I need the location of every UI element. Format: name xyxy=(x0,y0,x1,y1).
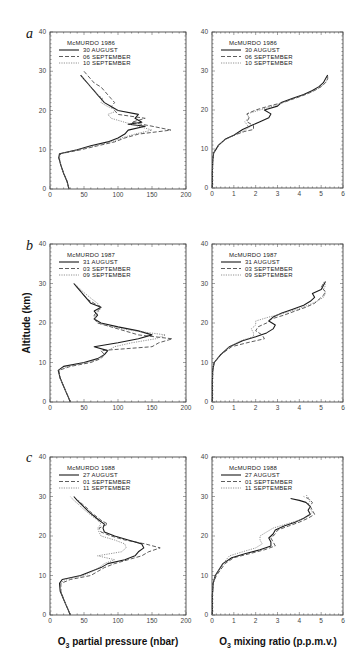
legend-entry: 27 AUGUST xyxy=(245,472,280,478)
y-tick-label: 40 xyxy=(201,240,209,247)
y-tick-label: 40 xyxy=(39,28,47,35)
panel-letter-a: a xyxy=(26,26,33,41)
legend-title: McMURDO 1988 xyxy=(229,465,278,471)
series-line-10-september xyxy=(212,79,327,188)
y-tick-label: 0 xyxy=(42,185,46,192)
y-tick-label: 0 xyxy=(204,611,208,618)
x-tick-label: 5 xyxy=(319,617,323,624)
x-tick-label: 100 xyxy=(113,404,124,411)
y-tick-label: 10 xyxy=(201,572,209,579)
x-tick-label: 0 xyxy=(48,617,52,624)
y-tick-label: 30 xyxy=(39,493,47,500)
x-tick-label: 5 xyxy=(319,190,323,197)
y-tick-label: 30 xyxy=(39,67,47,74)
y-tick-label: 0 xyxy=(204,184,208,191)
panel-letter-b: b xyxy=(26,238,33,253)
x-tick-label: 150 xyxy=(147,617,158,624)
x-axis-title-right: O3 mixing ratio (p.p.m.v.) xyxy=(219,636,337,649)
x-tick-label: 4 xyxy=(298,404,302,411)
legend-entry: 31 AUGUST xyxy=(83,259,118,265)
y-tick-label: 10 xyxy=(39,572,47,579)
y-tick-label: 20 xyxy=(39,532,47,539)
x-tick-label: 3 xyxy=(276,404,280,411)
x-tick-label: 200 xyxy=(181,617,192,624)
y-tick-label: 20 xyxy=(39,107,47,114)
legend-entry: 27 AUGUST xyxy=(83,472,118,478)
series-line-09-september xyxy=(59,284,166,403)
x-tick-label: 0 xyxy=(48,191,52,198)
legend-entry: 09 SEPTEMBER xyxy=(83,272,131,278)
y-tick-label: 40 xyxy=(39,453,47,460)
x-tick-label: 50 xyxy=(80,191,88,198)
x-axis-title-left: O3 partial pressure (nbar) xyxy=(58,636,179,649)
panel-a-right: 0123456010203040McMURDO 198630 AUGUST06 … xyxy=(201,28,345,197)
x-tick-label: 5 xyxy=(319,404,323,411)
ozone-profile-figure: a b c Altitude (km) O3 partial pressure … xyxy=(0,0,363,663)
series-line-11-september xyxy=(60,497,126,616)
y-tick-label: 40 xyxy=(201,453,209,460)
x-tick-label: 1 xyxy=(232,617,236,624)
x-tick-label: 1 xyxy=(232,404,236,411)
y-tick-label: 40 xyxy=(39,240,47,247)
x-tick-label: 4 xyxy=(298,617,302,624)
x-tick-label: 2 xyxy=(254,404,258,411)
legend-entry: 06 SEPTEMBER xyxy=(245,54,293,60)
y-tick-label: 20 xyxy=(201,532,209,539)
y-tick-label: 20 xyxy=(201,106,209,113)
legend-entry: 03 SEPTEMBER xyxy=(245,266,293,272)
legend-entry: 01 SEPTEMBER xyxy=(83,479,131,485)
x-tick-label: 50 xyxy=(80,617,88,624)
panel-b-left: 050100150200010203040McMURDO 198731 AUGU… xyxy=(39,240,192,411)
y-tick-label: 30 xyxy=(201,67,209,74)
y-tick-label: 20 xyxy=(39,319,47,326)
x-tick-label: 100 xyxy=(113,191,124,198)
x-tick-label: 0 xyxy=(210,404,214,411)
series-line-06-september xyxy=(59,71,171,189)
x-tick-label: 1 xyxy=(232,190,236,197)
x-tick-label: 200 xyxy=(181,191,192,198)
y-tick-label: 10 xyxy=(39,359,47,366)
y-tick-label: 10 xyxy=(201,359,209,366)
x-tick-label: 6 xyxy=(341,404,345,411)
legend-entry: 10 SEPTEMBER xyxy=(245,60,293,66)
series-line-09-september xyxy=(212,282,325,403)
y-tick-label: 0 xyxy=(42,611,46,618)
legend-title: McMURDO 1986 xyxy=(67,40,116,46)
panel-c-right: 0123456010203040McMURDO 198827 AUGUST01 … xyxy=(201,453,345,624)
panel-a-left: 050100150200010203040McMURDO 198630 AUGU… xyxy=(39,28,192,198)
x-tick-label: 100 xyxy=(113,617,124,624)
panel-c-left: 050100150200010203040McMURDO 198827 AUGU… xyxy=(39,453,192,624)
y-tick-label: 30 xyxy=(39,280,47,287)
legend-entry: 10 SEPTEMBER xyxy=(83,60,131,66)
x-tick-label: 50 xyxy=(80,404,88,411)
series-line-30-august xyxy=(59,75,145,189)
series-line-01-september xyxy=(61,500,160,615)
legend-entry: 06 SEPTEMBER xyxy=(83,54,131,60)
x-tick-label: 0 xyxy=(210,190,214,197)
x-tick-label: 150 xyxy=(147,404,158,411)
series-line-11-september xyxy=(212,495,312,616)
series-line-27-august xyxy=(212,499,310,616)
panel-b-right: 0123456010203040McMURDO 198731 AUGUST03 … xyxy=(201,240,345,411)
y-tick-label: 10 xyxy=(201,145,209,152)
panel-letter-c: c xyxy=(26,450,33,465)
y-tick-label: 20 xyxy=(201,319,209,326)
legend-title: McMURDO 1986 xyxy=(229,40,278,46)
x-tick-label: 2 xyxy=(254,617,258,624)
y-tick-label: 40 xyxy=(201,28,209,35)
legend-title: McMURDO 1988 xyxy=(67,465,116,471)
legend-entry: 09 SEPTEMBER xyxy=(245,272,293,278)
x-tick-label: 4 xyxy=(298,190,302,197)
legend-entry: 30 AUGUST xyxy=(245,47,280,53)
y-tick-label: 0 xyxy=(204,398,208,405)
y-tick-label: 10 xyxy=(39,146,47,153)
x-tick-label: 2 xyxy=(254,190,258,197)
x-tick-label: 200 xyxy=(181,404,192,411)
x-tick-label: 0 xyxy=(48,404,52,411)
legend-entry: 03 SEPTEMBER xyxy=(83,266,131,272)
x-tick-label: 3 xyxy=(276,617,280,624)
legend-entry: 31 AUGUST xyxy=(245,259,280,265)
series-line-31-august xyxy=(212,282,325,403)
legend-entry: 30 AUGUST xyxy=(83,47,118,53)
series-line-27-august xyxy=(60,497,144,616)
